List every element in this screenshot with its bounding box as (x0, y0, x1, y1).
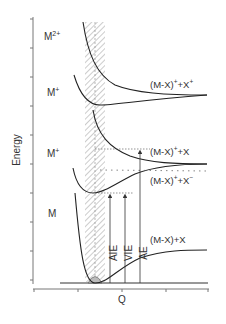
label-ae: AE (138, 246, 149, 260)
y-axis (30, 17, 33, 284)
x-axis-label: Q (118, 294, 126, 305)
x-axis (33, 289, 209, 292)
asymptote-label-mx-plus-x-minus: (M-X)++X− (150, 174, 193, 186)
state-label-Mplus-upper: M+ (47, 86, 59, 98)
label-vie: VIE (123, 245, 134, 261)
asymptote-label-mx-plus-x: (M-X)++X (150, 145, 190, 157)
asymptote-label-mx-plus-x-plus: (M-X)++X+ (150, 78, 193, 90)
energy-diagram: AIE VIE AE M2+ M+ M+ M (M-X)++X+ (M-X)++… (0, 0, 226, 324)
asymptote-label-mx-x: (M-X)+X (150, 234, 186, 245)
state-label-Mplus-lower: M+ (47, 147, 59, 159)
y-axis-label: Energy (11, 134, 22, 166)
state-label-M: M (48, 208, 56, 219)
state-label-M2plus: M2+ (44, 30, 60, 42)
label-aie: AIE (108, 245, 119, 261)
dotted-level-mx-xminus (100, 170, 207, 171)
